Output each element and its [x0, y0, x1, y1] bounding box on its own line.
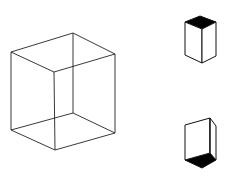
- cube-shaded-top: [185, 16, 216, 63]
- cube-shaded-bottom: [185, 118, 216, 168]
- necker-cube-diagram: [0, 0, 239, 177]
- necker-cube-wireframe: [11, 33, 115, 150]
